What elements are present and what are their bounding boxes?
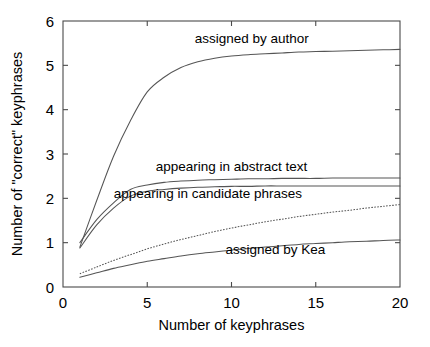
series-line-3: [80, 205, 400, 274]
x-tick-label: 15: [307, 294, 324, 311]
series-annotation-1: appearing in abstract text: [156, 159, 308, 174]
x-axis-title: Number of keyphrases: [159, 317, 305, 333]
y-tick-label: 1: [46, 234, 54, 251]
chart-figure: 051015200123456Number of keyphrasesNumbe…: [0, 0, 430, 347]
y-tick-label: 4: [46, 101, 54, 118]
series-annotation-2: appearing in candidate phrases: [114, 186, 303, 201]
y-tick-label: 5: [46, 57, 54, 74]
x-tick-label: 20: [392, 294, 409, 311]
series-line-0: [80, 49, 400, 247]
x-tick-label: 0: [59, 294, 67, 311]
y-tick-label: 2: [46, 190, 54, 207]
y-tick-label: 6: [46, 13, 54, 30]
y-tick-label: 3: [46, 146, 54, 163]
line-chart: 051015200123456Number of keyphrasesNumbe…: [0, 0, 430, 347]
series-annotation-0: assigned by author: [195, 31, 310, 46]
series-annotation-4: assigned by Kea: [225, 242, 325, 257]
y-axis-title: Number of "correct" keyphrases: [9, 52, 25, 257]
x-tick-label: 10: [223, 294, 240, 311]
x-tick-label: 5: [143, 294, 151, 311]
y-tick-label: 0: [46, 279, 54, 296]
